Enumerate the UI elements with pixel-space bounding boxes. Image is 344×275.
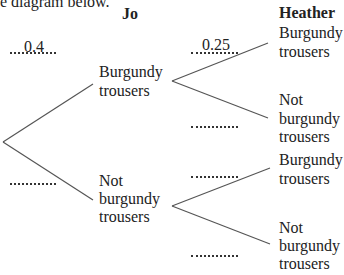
branch-jo-not-burgundy xyxy=(3,142,93,200)
header-heather: Heather xyxy=(279,3,335,22)
blank-jo-not-burgundy[interactable] xyxy=(10,183,56,185)
branch-heather-b-nb xyxy=(172,81,268,118)
heather-bnb-line1: Not xyxy=(279,90,303,109)
blank-heather-b-nb[interactable] xyxy=(191,126,238,128)
blank-heather-nb-nb[interactable] xyxy=(191,255,238,257)
heather-bnb-line3: trousers xyxy=(279,127,330,146)
heather-nbnb-line2: burgundy xyxy=(279,236,340,255)
tree-diagram: e diagram below. Jo Heather 0.4 Burgundy… xyxy=(0,0,344,275)
branch-jo-burgundy xyxy=(3,84,93,142)
heather-nbb-line1: Burgundy xyxy=(279,150,343,169)
blank-jo-burgundy[interactable] xyxy=(10,52,56,54)
intro-text: e diagram below. xyxy=(0,0,110,11)
header-jo: Jo xyxy=(122,4,138,23)
jo-burgundy-line1: Burgundy xyxy=(99,62,163,81)
jo-not-line1: Not xyxy=(99,171,123,190)
blank-heather-nb-b[interactable] xyxy=(191,176,238,178)
branch-heather-nb-nb xyxy=(172,206,270,244)
prob-heather-b-b: 0.25 xyxy=(202,37,230,53)
jo-not-line3: trousers xyxy=(99,207,150,226)
jo-not-line2: burgundy xyxy=(99,189,160,208)
heather-nbnb-line1: Not xyxy=(279,218,303,237)
jo-burgundy-line2: trousers xyxy=(99,81,150,100)
heather-bb-line2: trousers xyxy=(279,42,330,61)
heather-bb-line1: Burgundy xyxy=(279,23,343,42)
heather-nbnb-line3: trousers xyxy=(279,254,330,273)
branch-heather-nb-b xyxy=(172,168,270,206)
blank-heather-b-b[interactable] xyxy=(191,52,238,54)
heather-nbb-line2: trousers xyxy=(279,169,330,188)
heather-bnb-line2: burgundy xyxy=(279,109,340,128)
